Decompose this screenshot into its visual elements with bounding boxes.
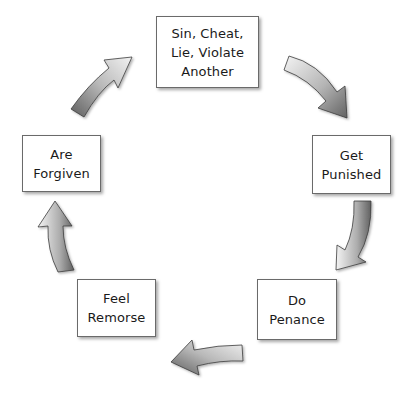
node-label-line: Are (50, 145, 72, 164)
node-label-line: Do (288, 291, 306, 310)
node-feel-remorse: Feel Remorse (77, 279, 156, 337)
node-are-forgiven: Are Forgiven (22, 135, 101, 192)
node-label-line: Remorse (88, 308, 146, 327)
arrow-forgiven-to-sin (71, 57, 132, 117)
node-label-line: Get (340, 146, 363, 165)
node-label-line: Sin, Cheat, (172, 24, 244, 43)
node-label-line: Forgiven (33, 164, 90, 183)
node-label-line: Lie, Violate (171, 43, 244, 62)
arrow-punished-to-penance (336, 201, 371, 270)
node-sin-cheat-lie-violate: Sin, Cheat, Lie, Violate Another (156, 16, 259, 88)
node-label-line: Another (181, 62, 233, 81)
arrow-remorse-to-forgiven (38, 201, 74, 272)
node-label-line: Penance (269, 310, 325, 329)
node-label-line: Punished (322, 165, 382, 184)
arrow-sin-to-punished (284, 56, 347, 118)
node-get-punished: Get Punished (312, 135, 391, 194)
node-do-penance: Do Penance (257, 279, 337, 340)
node-label-line: Feel (103, 289, 130, 308)
arrow-penance-to-remorse (171, 340, 243, 375)
